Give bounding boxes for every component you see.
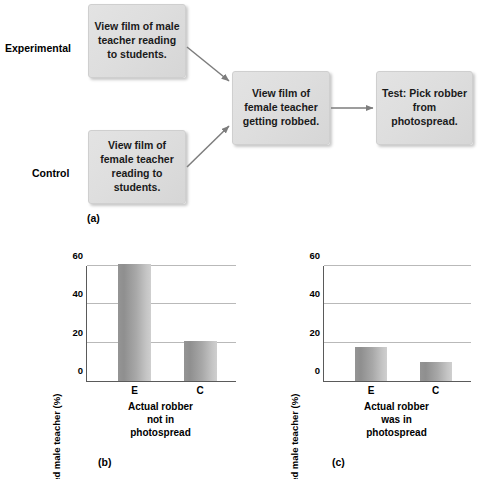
chart-c-xtick-C: C (432, 385, 439, 396)
chart-c-bar-C (420, 362, 452, 381)
chart-c-ytick-60: 60 (309, 250, 320, 261)
arrow-experimental-to-robbery (187, 47, 229, 81)
chart-c-gridline-60 (324, 265, 471, 266)
chart-b-ytick-60: 60 (72, 250, 83, 261)
group-label-control: Control (32, 167, 69, 179)
flowchart-panel: Experimental Control View film of male t… (0, 0, 482, 232)
chart-b-plot-area: 0 20 40 60 E C (86, 266, 236, 382)
chart-panel-b: Identified male teacher (%) 0 20 40 60 E… (18, 252, 250, 479)
chart-b-gridline-40 (87, 303, 236, 304)
chart-b-x-caption-line-2: not in (78, 413, 243, 426)
chart-c-gridline-20 (324, 342, 471, 343)
chart-b-bar-E (118, 264, 151, 381)
chart-b-ytick-20: 20 (72, 326, 83, 337)
chart-b-ytick-40: 40 (72, 288, 83, 299)
chart-panel-c: Identified male teacher (%) 0 20 40 60 E… (252, 252, 482, 479)
chart-b-xtick-E: E (131, 385, 138, 396)
chart-b-gridline-60 (87, 265, 236, 266)
chart-b-x-axis-caption: Actual robber not in photospread (78, 400, 243, 439)
panel-label-b: (b) (98, 456, 111, 468)
panel-label-a: (a) (87, 212, 100, 224)
chart-c-x-caption-line-3: photospread (314, 426, 479, 439)
arrow-control-to-robbery (187, 126, 229, 167)
group-label-experimental: Experimental (5, 42, 71, 54)
chart-c-ytick-40: 40 (309, 288, 320, 299)
flow-box-experimental-condition: View film of male teacher reading to stu… (88, 4, 186, 78)
flow-box-robbery-film: View film of female teacher getting robb… (232, 71, 330, 145)
chart-c-gridline-40 (324, 303, 471, 304)
chart-b-bar-C (184, 341, 217, 381)
chart-c-bar-E (355, 347, 387, 382)
chart-c-plot-area: 0 20 40 60 E C (323, 266, 471, 382)
chart-c-x-caption-line-2: was in (314, 413, 479, 426)
flow-box-control-condition: View film of female teacher reading to s… (88, 130, 186, 204)
chart-c-xtick-E: E (368, 385, 375, 396)
chart-c-ytick-20: 20 (309, 326, 320, 337)
panel-label-c: (c) (332, 456, 345, 468)
chart-b-x-caption-line-1: Actual robber (78, 400, 243, 413)
chart-b-xtick-C: C (197, 385, 204, 396)
chart-b-x-caption-line-3: photospread (78, 426, 243, 439)
chart-c-x-caption-line-1: Actual robber (314, 400, 479, 413)
chart-c-ytick-0: 0 (315, 365, 320, 376)
chart-c-x-axis-caption: Actual robber was in photospread (314, 400, 479, 439)
flow-box-test-photospread: Test: Pick robber from photospread. (376, 71, 473, 145)
chart-b-ytick-0: 0 (78, 365, 83, 376)
